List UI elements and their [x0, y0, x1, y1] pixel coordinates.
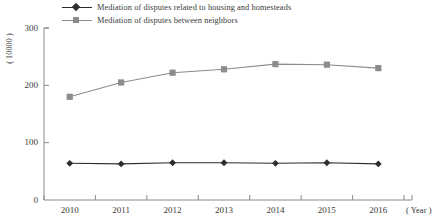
- plot-area: [0, 0, 446, 223]
- data-point-marker[interactable]: [323, 159, 330, 166]
- data-point-marker[interactable]: [169, 159, 176, 166]
- line-chart: Mediation of disputes related to housing…: [0, 0, 446, 223]
- data-point-marker[interactable]: [169, 70, 175, 76]
- data-point-marker[interactable]: [272, 160, 279, 167]
- data-point-marker[interactable]: [118, 160, 125, 167]
- data-point-marker[interactable]: [375, 160, 382, 167]
- data-point-marker[interactable]: [66, 160, 73, 167]
- data-point-marker[interactable]: [375, 65, 381, 71]
- data-point-marker[interactable]: [324, 62, 330, 68]
- data-point-marker[interactable]: [118, 79, 124, 85]
- data-point-marker[interactable]: [221, 66, 227, 72]
- data-point-marker[interactable]: [221, 159, 228, 166]
- data-point-marker[interactable]: [272, 61, 278, 67]
- axis-lines: [44, 28, 412, 200]
- data-point-marker[interactable]: [67, 94, 73, 100]
